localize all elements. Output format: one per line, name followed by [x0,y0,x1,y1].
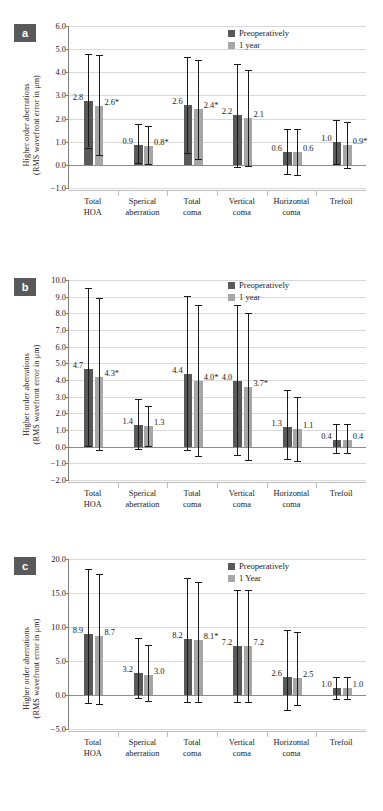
gridline [69,661,366,662]
bar-value-label: 2.6 [271,669,281,678]
x-axis-tick-label-line2: coma [183,500,201,509]
error-bar-cap-bottom [195,702,202,703]
error-bar-cap-top [145,406,152,407]
bar-value-label: 0.4 [353,432,363,441]
error-bar-cap-bottom [184,702,191,703]
x-axis-tick-label-line1: Sperical [129,489,156,498]
x-axis-category-separator [167,732,168,737]
chart-legend-b: Preoperatively1 year [228,280,289,304]
legend-label: Preoperatively [239,280,289,291]
y-axis-tick-mark [66,430,69,431]
error-bar-cap-bottom [135,163,142,164]
x-axis-tick-label-line1: Trefoil [330,489,353,498]
x-axis-category-label: Spericalaberration [118,197,168,218]
plot-area-c: 20.015.010.05.00.0−5.08.93.28.27.22.61.0… [68,559,366,729]
x-axis-category-label: Horizontalcoma [267,738,317,759]
error-bar-cap-bottom [96,704,103,705]
error-bar-cap-bottom [234,167,241,168]
legend-label: Preoperatively [239,561,289,572]
error-bar [287,129,288,174]
error-bar-cap-bottom [245,702,252,703]
error-bar [187,578,188,702]
bar-value-label: 2.2 [222,107,232,116]
y-axis-tick-mark [66,695,69,696]
bar-value-label: 1.4 [122,417,132,426]
chart-legend-a: Preoperatively1 year [228,28,289,52]
y-axis-tick-mark [66,26,69,27]
error-bar [237,590,238,702]
error-bar [148,406,149,445]
bar-value-label: 8.9 [73,626,83,635]
bar-value-label: 3.2 [122,665,132,674]
legend-item: Preoperatively [228,561,289,572]
error-bar-cap-bottom [284,710,291,711]
error-bar-cap-bottom [245,460,252,461]
bar-value-label: 2.1 [253,110,263,119]
error-bar-cap-top [234,305,241,306]
gridline [69,26,366,27]
y-axis-tick-label: 3.0 [56,392,66,401]
gridline [69,347,366,348]
error-bar-cap-top [85,54,92,55]
error-bar-cap-bottom [195,456,202,457]
bar-value-label: 8.7 [104,628,114,637]
bar-value-label: 7.2 [253,638,263,647]
legend-swatch-icon [228,294,235,301]
y-axis-tick-label: 4.0 [56,68,66,77]
y-axis-tick-mark [66,330,69,331]
error-bar-cap-top [85,288,92,289]
y-axis-tick-mark [66,95,69,96]
error-bar-cap-top [344,424,351,425]
x-axis-tick-label-line2: HOA [84,500,102,509]
panel-label-c: c [14,557,36,575]
x-axis-category-label: Verticalcoma [217,738,267,759]
error-bar [297,397,298,461]
error-bar [88,569,89,704]
bar-value-label: 4.4 [172,366,182,375]
x-axis-tick-label-line2: coma [233,500,251,509]
x-axis-category-separator [118,732,119,737]
error-bar-cap-top [184,57,191,58]
y-axis-title-line2: (RMS wavefront error in μm) [32,75,41,175]
legend-label: 1 year [239,292,260,303]
y-axis-title-line1: Higher order aberrations [22,627,31,710]
x-axis-tick-label-line2: coma [183,208,201,217]
x-axis-category-label: Verticalcoma [217,197,267,218]
y-axis-title-line1: Higher order aberrations [22,84,31,167]
y-axis-tick-mark [66,397,69,398]
x-axis-tick-label-line1: Vertical [229,489,255,498]
error-bar-cap-top [344,122,351,123]
y-axis-tick-mark [66,559,69,560]
error-bar-cap-bottom [234,455,241,456]
x-axis-tick-label-line2: aberration [126,749,160,758]
y-axis-tick-label: 0.0 [56,160,66,169]
x-axis-tick-label-line2: aberration [126,500,160,509]
gridline [69,413,366,414]
bar-value-label: 1.0 [353,680,363,689]
legend-swatch-icon [228,282,235,289]
bar-value-label: 4.3* [104,369,119,378]
bar-value-label: 8.2 [172,631,182,640]
x-axis-category-separator [217,483,218,488]
x-axis-tick-label-line1: Total [184,489,201,498]
y-axis-title-b: Higher order aberrations (RMS wavefront … [22,297,42,492]
error-bar [237,64,238,167]
error-bar-cap-bottom [333,453,340,454]
error-bar [347,122,348,168]
y-axis-tick-label: −1.0 [51,184,66,193]
x-axis-category-label: Verticalcoma [217,489,267,510]
x-axis-category-label: TotalHOA [68,197,118,218]
y-axis-tick-label: −5.0 [51,725,66,734]
error-bar-cap-bottom [85,148,92,149]
error-bar-cap-top [135,638,142,639]
y-axis-tick-mark [66,447,69,448]
error-bar [248,590,249,702]
gridline [69,330,366,331]
error-bar [88,54,89,148]
gridline [69,165,366,166]
x-axis-category-label: TotalHOA [68,738,118,759]
error-bar-cap-top [284,630,291,631]
error-bar-cap-top [294,632,301,633]
legend-swatch-icon [228,575,235,582]
x-axis-tick-label-line1: Vertical [229,738,255,747]
